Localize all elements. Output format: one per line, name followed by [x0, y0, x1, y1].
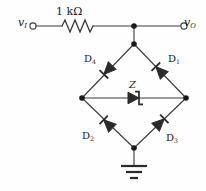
node-bridge-right [183, 95, 189, 101]
node-bridge-top [131, 41, 137, 47]
circuit-diagram: vI vO 1 kΩ D4 D1 D2 D3 Z [0, 0, 206, 191]
resistor-label: 1 kΩ [56, 5, 82, 18]
node-top-output [131, 23, 137, 29]
diode2-symbol [100, 116, 117, 133]
input-terminal-label: vI [18, 16, 27, 30]
node-bridge-left [79, 95, 85, 101]
resistor-symbol [62, 20, 93, 32]
input-terminal-circle[interactable] [30, 23, 36, 29]
ground-icon [121, 166, 147, 178]
diode3-label: D3 [166, 132, 178, 144]
circuit-schematic-svg [0, 0, 206, 191]
zener-label: Z [129, 79, 136, 90]
diode2-label: D2 [82, 130, 94, 142]
diode1-label: D1 [168, 53, 180, 65]
node-bridge-bottom [131, 145, 137, 151]
diode4-label: D4 [84, 53, 96, 65]
output-terminal-label: vO [184, 16, 196, 30]
